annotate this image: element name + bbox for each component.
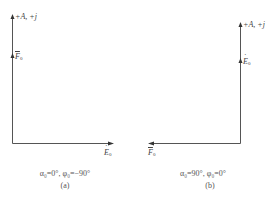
phasor-label-e0-b: E0 [243,58,250,66]
phasor-symbol: E [104,148,109,157]
diagram-b [148,22,243,146]
condition-b: α₀=90°, φ₀=0° [163,170,243,178]
caption-a: (a) [25,182,105,190]
phasor-arrowhead-e0-a [108,142,114,146]
phasor-symbol: E [243,57,248,66]
phasor-arrowhead-e0-b [239,58,243,63]
phasor-label-f0-b: F0 [148,149,155,157]
axis-label-a: +A, +j [15,13,37,21]
axis-arrowhead-a [11,14,15,19]
phasor-arrowhead-f0-a [11,53,15,58]
phasor-label-f0-a: F0 [15,53,22,61]
axis-label-b: +A, +j [243,21,265,29]
caption-b: (b) [170,182,250,190]
diagram-a [11,14,115,146]
phasor-label-e0-a: E0 [104,149,111,157]
phasor-subscript: 0 [248,61,251,66]
condition-a: α₀=0°, φ₀=−90° [25,170,105,178]
axis-arrowhead-b [239,22,243,27]
phasor-subscript: 0 [109,152,112,157]
phasor-subscript: 0 [153,152,156,157]
phasor-subscript: 0 [20,56,23,61]
phasor-arrowhead-f0-b [148,142,154,146]
